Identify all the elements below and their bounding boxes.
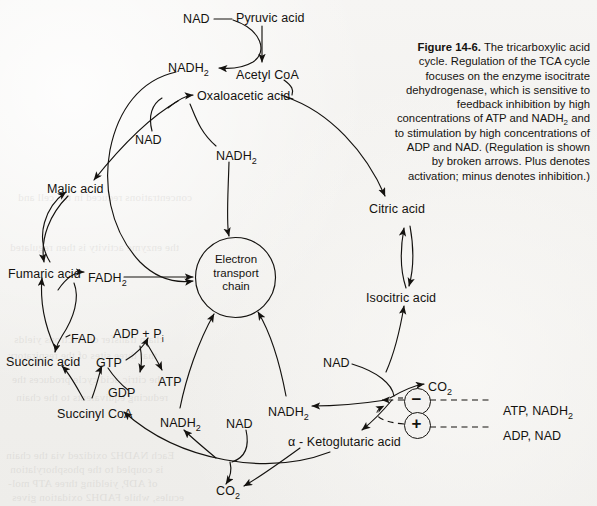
metabolite-gtp: GTP [96, 357, 122, 370]
subscript: 2 [196, 423, 201, 433]
metabolite-fadh2: FADH2 [88, 272, 127, 285]
metabolite-nad-ketoglutarate: NAD [226, 418, 253, 431]
arrow-isocitrate-to-alphakg [362, 400, 392, 430]
metabolite-acetyl-coa: Acetyl CoA [236, 69, 299, 82]
activation-label: ADP, NAD [503, 430, 561, 443]
metabolite-atp: ATP [158, 376, 182, 389]
subscript: 2 [447, 387, 452, 397]
arrow-nadh2-pyruvate-to-etc [108, 72, 193, 282]
metabolite-nadh2-pyruvate: NADH2 [168, 62, 209, 75]
arrow-malate-to-oxaloacetate [168, 95, 193, 108]
arrow-gtp-to-adp [126, 338, 148, 360]
subscript: 2 [568, 411, 573, 421]
arrow-adp-to-atp [146, 342, 162, 370]
arrow-succinylcoa-to-succinate [62, 366, 84, 400]
metabolite-gdp: GDP [108, 387, 135, 400]
subscript: 2 [252, 156, 257, 166]
metabolite-fumaric-acid: Fumaric acid [8, 268, 81, 281]
arrow-malate-to-fumarate [43, 196, 68, 262]
metabolite-malic-acid: Malic acid [47, 183, 104, 196]
etc-label-line1: Electron [196, 253, 276, 267]
plus-icon: + [404, 412, 429, 437]
arrow-alphakg-to-co2-right [244, 448, 300, 486]
metabolite-co2-isocitrate: CO2 [428, 381, 452, 394]
subscript: 2 [122, 278, 127, 288]
arrow-isocitrate-to-nadh2 [312, 400, 386, 406]
etc-label-line3: chain [196, 280, 276, 294]
tick-fad [66, 335, 70, 337]
subscript: 2 [304, 412, 309, 422]
arrow-isocitrate-step [386, 306, 404, 372]
metabolite-succinyl-coa: Succinyl CoA [57, 408, 133, 421]
arrow-oxaloacetate-to-citrate [286, 97, 385, 196]
figure-caption: Figure 14-6. The tricarboxylic acid cycl… [392, 40, 590, 183]
subscript: i [162, 334, 164, 344]
arrow-nad-into-malate-oxidation [150, 98, 162, 131]
metabolite-nad-malate: NAD [135, 134, 162, 147]
metabolite-succinic-acid: Succinic acid [6, 356, 80, 369]
arrow-succinate-to-fumarate [42, 278, 55, 348]
arrow-atp-exchange [140, 346, 142, 372]
arrow-nad-to-nadh2-pyruvate [219, 20, 261, 68]
metabolite-citric-acid: Citric acid [369, 203, 425, 216]
metabolite-nad-isocitrate: NAD [323, 357, 350, 370]
figure-number: Figure 14-6. [418, 41, 481, 53]
arrow-citrate-to-isocitrate [409, 226, 413, 286]
metabolite-nadh2-succinyl: NADH2 [160, 417, 201, 430]
metabolite-nadh2-ketoglutarate: NADH2 [268, 406, 309, 419]
arrow-activation-to-isocitrate-dh [377, 406, 404, 424]
inhibition-label: ATP, NADH2 [503, 405, 573, 418]
arrow-nadh2-succinyl-to-etc [180, 314, 214, 408]
electron-transport-chain-label: Electron transport chain [196, 253, 276, 294]
arrow-alphakg-step-to-co2 [226, 462, 231, 484]
arrow-succinylcoa-to-gtp [92, 366, 102, 398]
subscript: 2 [235, 491, 240, 501]
metabolite-alpha-ketoglutaric: α - Ketoglutaric acid [288, 436, 401, 449]
arrow-isocitrate-to-citrate [401, 228, 406, 288]
etc-label-line2: transport [196, 267, 276, 281]
metabolite-nad-pyruvate: NAD [183, 13, 210, 26]
metabolite-oxaloacetic-acid: Oxaloacetic acid [197, 90, 290, 103]
figure-page: concentrations reduced in the cell andth… [0, 0, 597, 506]
subscript: 2 [204, 68, 209, 78]
arrow-nadh2-malate-to-etc [227, 162, 229, 236]
metabolite-pyruvic-acid: Pyruvic acid [236, 12, 305, 25]
metabolite-fad: FAD [71, 333, 96, 346]
subscript: 2 [564, 119, 568, 128]
arrow-nadh2-alphakg-to-etc [258, 312, 286, 396]
arrow-malate-step-to-nadh2 [190, 104, 216, 146]
metabolite-nadh2-malate: NADH2 [216, 150, 257, 163]
arrow-nad-to-alphakg-step [232, 430, 247, 462]
minus-icon: − [404, 388, 429, 413]
metabolite-isocitric-acid: Isocitric acid [366, 292, 436, 305]
metabolite-adp-pi: ADP + Pi [113, 328, 164, 341]
metabolite-co2-ketoglutarate: CO2 [216, 485, 240, 498]
